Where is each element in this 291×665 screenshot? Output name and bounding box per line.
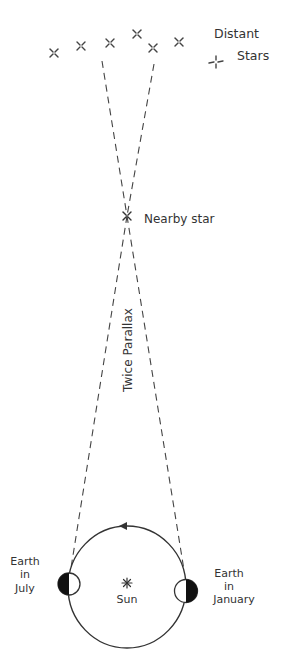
star-icon (50, 49, 58, 57)
distant-stars-label-line2: Stars (237, 48, 269, 63)
star-icon (149, 44, 157, 52)
earth-january-label-line1: Earth (214, 567, 244, 580)
sun-icon (122, 578, 132, 588)
star-icon (133, 30, 141, 38)
star-icon (175, 38, 183, 46)
twice-parallax-label: Twice Parallax (121, 308, 135, 393)
sun-label: Sun (117, 593, 138, 606)
earth-july-icon (58, 573, 80, 595)
distant-stars (50, 30, 223, 68)
earth-july-label-line3: July (14, 582, 35, 595)
earth-january-label-line3: January (212, 593, 255, 606)
parallax-diagram: Distant Stars Nearby star Twice Parallax… (0, 0, 291, 665)
orbit-direction-arrow-icon (119, 522, 127, 530)
earth-january-label-line2: in (224, 580, 234, 593)
star-icon (106, 39, 114, 47)
star-icon (209, 56, 223, 68)
earth-january-icon (175, 580, 198, 603)
star-icon (77, 42, 85, 50)
distant-stars-label-line1: Distant (214, 26, 259, 41)
earth-july-label-line1: Earth (10, 555, 40, 568)
earth-july-label-line2: in (20, 568, 30, 581)
nearby-star-label: Nearby star (144, 212, 214, 226)
